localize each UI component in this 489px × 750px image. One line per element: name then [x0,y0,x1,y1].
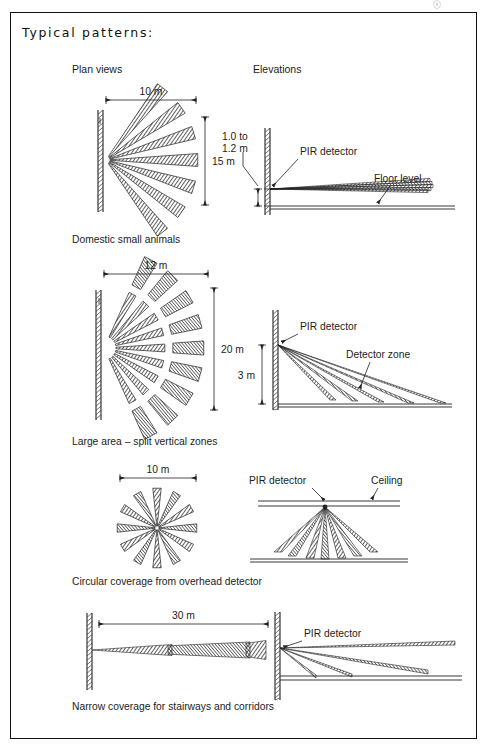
beam-fan-row-0 [100,84,198,237]
svg-text:1.2 m: 1.2 m [222,143,248,154]
wall-elev-row-0 [265,128,270,215]
beam-fan-split-row-1 [99,257,204,440]
callout-pir-detector-row-2: PIR detector [249,475,324,500]
callout-pir-detector-row-3: PIR detector [284,628,362,647]
wall-elev-row-3 [275,612,280,700]
svg-text:15 m: 15 m [212,156,235,167]
callout-pir-detector-row-1: PIR detector [282,321,358,342]
callout-ceiling-row-2: Ceiling [371,475,403,499]
svg-text:Floor level: Floor level [374,173,422,184]
wall-plan-row-0 [98,110,103,212]
svg-text:30 m: 30 m [172,610,195,621]
detector-pattern-diagrams: 10 m15 m12 m20 m3 m10 m30 m1.0 to1.2 m P… [0,0,489,750]
beam-elev-row-3 [280,641,455,678]
beam-corridor-row-3 [92,641,266,660]
svg-text:Ceiling: Ceiling [371,475,403,486]
dimension-row-1-width: 12 m [104,260,208,278]
wall-plan-row-3 [87,613,92,690]
beam-radial-row-2 [117,488,197,568]
dimension-row-1-depth: 20 m [210,288,244,410]
svg-text:12 m: 12 m [145,260,168,271]
beam-ceiling-row-2 [274,505,378,559]
svg-text:PIR detector: PIR detector [249,475,307,486]
dimension-row-3-width: 30 m [99,610,268,628]
wall-plan-row-1 [96,290,101,420]
svg-text:1.0 to: 1.0 to [222,131,248,142]
svg-text:20 m: 20 m [221,344,244,355]
svg-text:3 m: 3 m [238,370,255,381]
svg-text:PIR detector: PIR detector [300,321,358,332]
callout-pir-detector-row-0: PIR detector [273,146,358,186]
wall-elev-row-1 [273,310,278,410]
wall-sections [87,110,462,700]
svg-text:PIR detector: PIR detector [300,146,358,157]
callout-detector-zone-row-1: Detector zone [346,349,410,388]
svg-text:PIR detector: PIR detector [304,628,362,639]
svg-text:Detector zone: Detector zone [346,349,410,360]
svg-text:10 m: 10 m [147,464,170,475]
svg-text:10 m: 10 m [140,86,163,97]
dimension-row-0-mount-height: 1.0 to1.2 m [222,131,269,206]
dimension-row-2-width: 10 m [120,464,196,482]
